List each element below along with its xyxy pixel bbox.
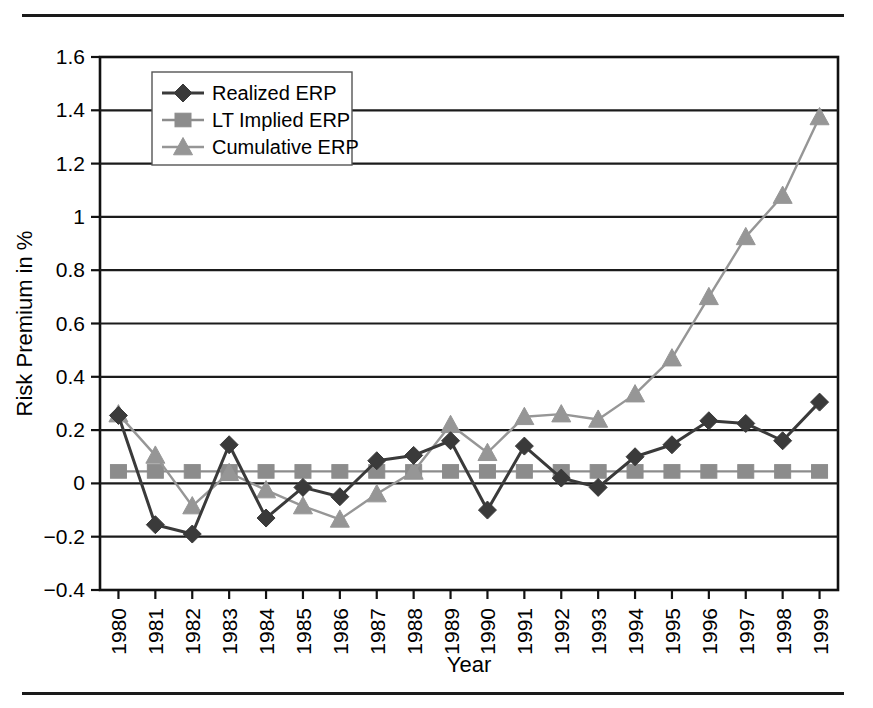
line-chart: −0.4−0.200.20.40.60.811.21.41.6198019811… [0, 0, 873, 708]
y-tick-label: 0.2 [56, 418, 85, 441]
x-tick-label: 1993 [587, 608, 610, 655]
data-point-square [516, 465, 532, 479]
data-point-square [443, 465, 459, 479]
x-tick-label: 1990 [476, 608, 499, 655]
legend-marker-square [175, 113, 191, 127]
x-tick-label: 1984 [255, 608, 278, 655]
x-tick-label: 1980 [107, 608, 130, 655]
y-tick-label: 1.2 [56, 152, 85, 175]
data-point-square [812, 465, 828, 479]
x-tick-label: 1994 [624, 608, 647, 655]
x-tick-label: 1981 [144, 608, 167, 655]
x-tick-label: 1987 [366, 608, 389, 655]
data-point-square [147, 465, 163, 479]
y-tick-label: −0.2 [44, 525, 85, 548]
y-tick-label: 0 [73, 471, 85, 494]
y-tick-label: 1.6 [56, 45, 85, 68]
chart-legend: Realized ERPLT Implied ERPCumulative ERP [152, 72, 359, 165]
y-tick-label: 1.4 [56, 98, 86, 121]
data-point-square [590, 465, 606, 479]
x-tick-label: 1991 [513, 608, 536, 655]
data-point-square [295, 465, 311, 479]
x-tick-label: 1999 [809, 608, 832, 655]
data-point-square [258, 465, 274, 479]
y-tick-label: 0.4 [56, 365, 86, 388]
x-tick-label: 1996 [698, 608, 721, 655]
x-tick-label: 1995 [661, 608, 684, 655]
y-tick-label: 1 [73, 205, 85, 228]
x-axis-title: Year [447, 652, 491, 677]
x-tick-label: 1982 [181, 608, 204, 655]
data-point-square [664, 465, 680, 479]
figure-page: −0.4−0.200.20.40.60.811.21.41.6198019811… [0, 0, 873, 708]
x-tick-label: 1988 [403, 608, 426, 655]
y-tick-label: 0.6 [56, 312, 85, 335]
x-tick-label: 1985 [292, 608, 315, 655]
x-tick-label: 1997 [735, 608, 758, 655]
data-point-square [110, 465, 126, 479]
y-tick-label: −0.4 [44, 578, 86, 601]
y-tick-label: 0.8 [56, 258, 85, 281]
x-tick-label: 1989 [440, 608, 463, 655]
legend-label: Cumulative ERP [212, 136, 359, 158]
data-point-square [184, 465, 200, 479]
data-point-square [701, 465, 717, 479]
data-point-square [479, 465, 495, 479]
data-point-square [738, 465, 754, 479]
data-point-square [332, 465, 348, 479]
data-point-square [627, 465, 643, 479]
x-tick-label: 1998 [772, 608, 795, 655]
data-point-square [775, 465, 791, 479]
legend-label: LT Implied ERP [212, 109, 350, 131]
x-tick-label: 1986 [329, 608, 352, 655]
x-tick-label: 1983 [218, 608, 241, 655]
y-axis-title: Risk Premium in % [12, 231, 37, 417]
chart-container: −0.4−0.200.20.40.60.811.21.41.6198019811… [0, 0, 873, 708]
x-tick-label: 1992 [550, 608, 573, 655]
legend-label: Realized ERP [212, 82, 337, 104]
